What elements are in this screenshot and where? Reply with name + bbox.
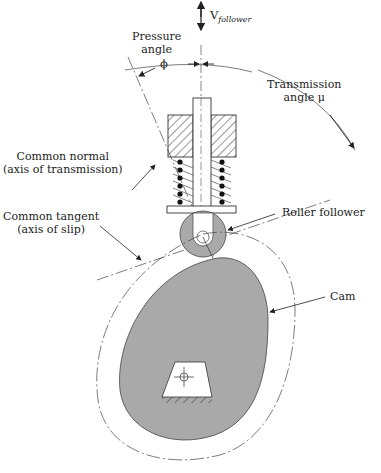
cam-label: Cam (330, 290, 355, 303)
transmission-line2: angle μ (267, 91, 341, 104)
common-tangent-line2: (axis of slip) (3, 223, 99, 236)
velocity-label: Vfollower (209, 8, 253, 24)
pressure-angle-label: Pressure angle (132, 30, 181, 56)
common-tangent-label: Common tangent (axis of slip) (3, 210, 99, 236)
common-normal-line2: (axis of transmission) (3, 163, 123, 176)
transmission-angle-label: Transmission angle μ (267, 78, 341, 104)
common-normal-label: Common normal (axis of transmission) (3, 150, 123, 176)
housing-left (168, 115, 193, 157)
cam-mount-ground (162, 397, 212, 403)
housing-right (211, 115, 236, 157)
phi-symbol: ϕ (160, 57, 168, 71)
cam-follower-diagram: Vfollower ϕ (0, 0, 381, 473)
pressure-angle-line2: angle (132, 43, 181, 56)
follower-stem (193, 98, 211, 210)
common-normal-line1: Common normal (3, 150, 123, 163)
transmission-line1: Transmission (267, 78, 341, 91)
pressure-angle-line1: Pressure (132, 30, 181, 43)
pressure-angle-arc (125, 64, 252, 72)
common-tangent-line1: Common tangent (3, 210, 99, 223)
roller-follower-label: Roller follower (282, 206, 365, 219)
cam-profile (120, 258, 268, 440)
